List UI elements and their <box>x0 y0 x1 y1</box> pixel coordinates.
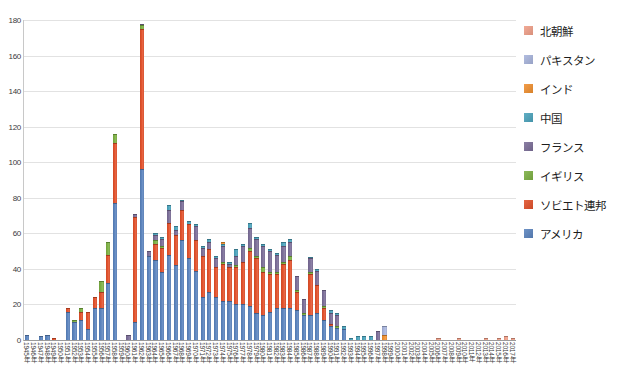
bar-segment <box>281 264 285 308</box>
bar-column <box>180 200 184 340</box>
bar-segment <box>45 335 49 340</box>
bar-segment <box>106 255 110 283</box>
legend-item-label: 中国 <box>540 110 562 126</box>
legend-item-0[interactable]: 北朝鮮 <box>524 16 632 45</box>
bar-segment <box>382 335 386 340</box>
bar-column <box>268 249 272 340</box>
legend-item-3[interactable]: 中国 <box>524 103 632 132</box>
bar-column <box>133 214 137 340</box>
legend-item-label: 北朝鮮 <box>540 23 573 39</box>
bar-column <box>167 205 171 340</box>
bar-segment <box>315 285 319 313</box>
bar-segment <box>261 315 265 340</box>
legend-item-label: フランス <box>540 139 584 155</box>
x-axis-tick-label: 2017年 <box>507 342 517 362</box>
bar-segment <box>268 312 272 340</box>
bar-column <box>160 237 164 340</box>
bar-column <box>436 338 440 340</box>
bar-segment <box>268 251 272 272</box>
bar-segment <box>261 246 265 267</box>
bar-segment <box>356 336 360 340</box>
bar-segment <box>436 338 440 340</box>
legend-color-swatch <box>524 142 533 151</box>
bar-segment <box>362 336 366 340</box>
bar-segment <box>153 244 157 260</box>
bar-column <box>356 336 360 340</box>
bar-segment <box>281 246 285 262</box>
bar-segment <box>194 271 198 340</box>
bar-segment <box>254 258 258 313</box>
bar-segment <box>39 336 43 340</box>
y-axis-tick-label: 40 <box>13 264 21 273</box>
bar-segment <box>99 292 103 308</box>
bar-segment <box>248 228 252 248</box>
bar-column <box>86 312 90 340</box>
legend-item-6[interactable]: ソビエト連邦 <box>524 190 632 219</box>
bar-segment <box>234 304 238 340</box>
bar-segment <box>288 308 292 340</box>
legend-item-1[interactable]: パキスタン <box>524 45 632 74</box>
bar-column <box>308 257 312 341</box>
y-axis-tick-label: 160 <box>9 51 21 60</box>
legend-item-label: アメリカ <box>540 226 583 242</box>
bar-segment <box>99 281 103 292</box>
bar-column <box>376 331 380 340</box>
bar-segment <box>254 313 258 340</box>
bar-segment <box>268 274 272 311</box>
bar-segment <box>86 329 90 340</box>
bar-segment <box>369 336 373 340</box>
legend-item-5[interactable]: イギリス <box>524 161 632 190</box>
bar-segment <box>288 242 292 256</box>
bar-column <box>140 24 144 340</box>
bar-segment <box>241 246 245 262</box>
bar-segment <box>221 301 225 340</box>
bar-segment <box>227 301 231 340</box>
bar-column <box>227 262 231 340</box>
bar-column <box>153 233 157 340</box>
y-axis-tick-label: 120 <box>9 122 21 131</box>
legend-color-swatch <box>524 229 533 238</box>
bar-segment <box>25 335 29 340</box>
bar-column <box>174 226 178 340</box>
bar-segment <box>160 272 164 340</box>
bar-segment <box>234 256 238 265</box>
bar-segment <box>254 239 258 257</box>
bar-column <box>187 221 191 340</box>
bar-column <box>66 308 70 340</box>
bar-segment <box>140 169 144 340</box>
bar-column <box>511 338 515 340</box>
bar-segment <box>315 271 319 285</box>
bar-segment <box>133 217 137 322</box>
legend-item-7[interactable]: アメリカ <box>524 219 632 248</box>
bar-segment <box>308 274 312 315</box>
bar-column <box>248 223 252 340</box>
bar-segment <box>288 260 292 308</box>
legend-item-4[interactable]: フランス <box>524 132 632 161</box>
bar-segment <box>79 320 83 340</box>
bar-segment <box>335 328 339 340</box>
legend-color-swatch <box>524 26 533 35</box>
bar-column <box>72 320 76 340</box>
bar-column <box>221 242 225 340</box>
bar-segment <box>322 320 326 340</box>
legend-item-2[interactable]: インド <box>524 74 632 103</box>
bar-segment <box>329 313 333 324</box>
bar-segment <box>160 248 164 273</box>
bar-segment <box>382 326 386 335</box>
bar-segment <box>147 256 151 340</box>
bar-column <box>52 338 56 340</box>
bar-column <box>194 224 198 340</box>
bar-segment <box>207 249 211 292</box>
bar-segment <box>133 322 137 340</box>
bar-segment <box>484 338 488 340</box>
bar-segment <box>376 331 380 340</box>
bar-segment <box>167 210 171 222</box>
bar-segment <box>113 143 117 203</box>
legend-item-label: インド <box>540 81 573 97</box>
bar-column <box>254 237 258 340</box>
bar-column <box>281 242 285 340</box>
bar-segment <box>113 134 117 143</box>
bar-segment <box>349 338 353 340</box>
bar-segment <box>511 338 515 340</box>
bar-segment <box>194 240 198 270</box>
